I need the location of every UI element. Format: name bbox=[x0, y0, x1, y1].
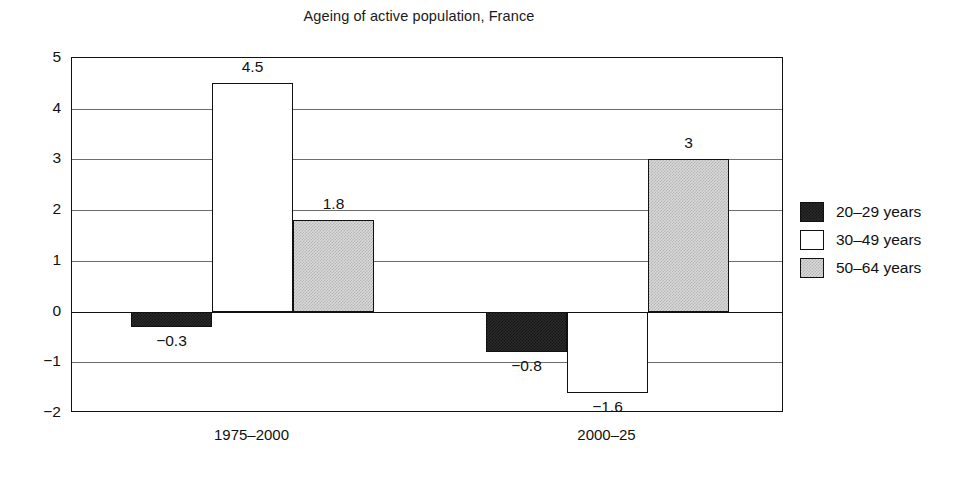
bar bbox=[293, 220, 374, 311]
chart-legend: 20–29 years30–49 years50–64 years bbox=[800, 198, 921, 282]
legend-item[interactable]: 50–64 years bbox=[800, 254, 921, 282]
x-axis-category-label: 2000–25 bbox=[517, 426, 697, 443]
y-axis-tick-label: 3 bbox=[19, 150, 61, 166]
y-axis-tick-label: 0 bbox=[19, 303, 61, 319]
bar-value-label: 4.5 bbox=[200, 59, 305, 75]
chart-title: Ageing of active population, France bbox=[0, 8, 838, 24]
x-axis-category-label: 1975–2000 bbox=[162, 426, 342, 443]
y-axis-tick-label: −2 bbox=[19, 404, 61, 420]
y-axis-tick-label: 5 bbox=[19, 49, 61, 65]
legend-swatch-icon bbox=[800, 258, 824, 278]
bar bbox=[486, 312, 567, 353]
bar-value-label: 3 bbox=[636, 135, 741, 151]
chart-figure: Ageing of active population, France 5432… bbox=[0, 0, 972, 478]
gridline bbox=[72, 109, 782, 110]
y-axis-tick-label: 4 bbox=[19, 100, 61, 116]
bar-value-label: −0.8 bbox=[474, 358, 579, 374]
legend-item[interactable]: 30–49 years bbox=[800, 226, 921, 254]
bar-value-label: −1.6 bbox=[555, 399, 660, 415]
legend-swatch-icon bbox=[800, 230, 824, 250]
legend-item-label: 50–64 years bbox=[836, 259, 921, 277]
bar-value-label: 1.8 bbox=[281, 196, 386, 212]
bar bbox=[567, 312, 648, 393]
y-axis-tick-label: 2 bbox=[19, 201, 61, 217]
y-axis-tick-label: −1 bbox=[19, 353, 61, 369]
gridline bbox=[72, 362, 782, 363]
legend-swatch-icon bbox=[800, 202, 824, 222]
bar bbox=[131, 312, 212, 327]
legend-item-label: 20–29 years bbox=[836, 203, 921, 221]
plot-area: −0.34.51.8−0.8−1.63 bbox=[71, 57, 783, 412]
bar bbox=[648, 159, 729, 311]
bar-value-label: −0.3 bbox=[119, 333, 224, 349]
legend-item[interactable]: 20–29 years bbox=[800, 198, 921, 226]
y-axis-tick-label: 1 bbox=[19, 252, 61, 268]
legend-item-label: 30–49 years bbox=[836, 231, 921, 249]
